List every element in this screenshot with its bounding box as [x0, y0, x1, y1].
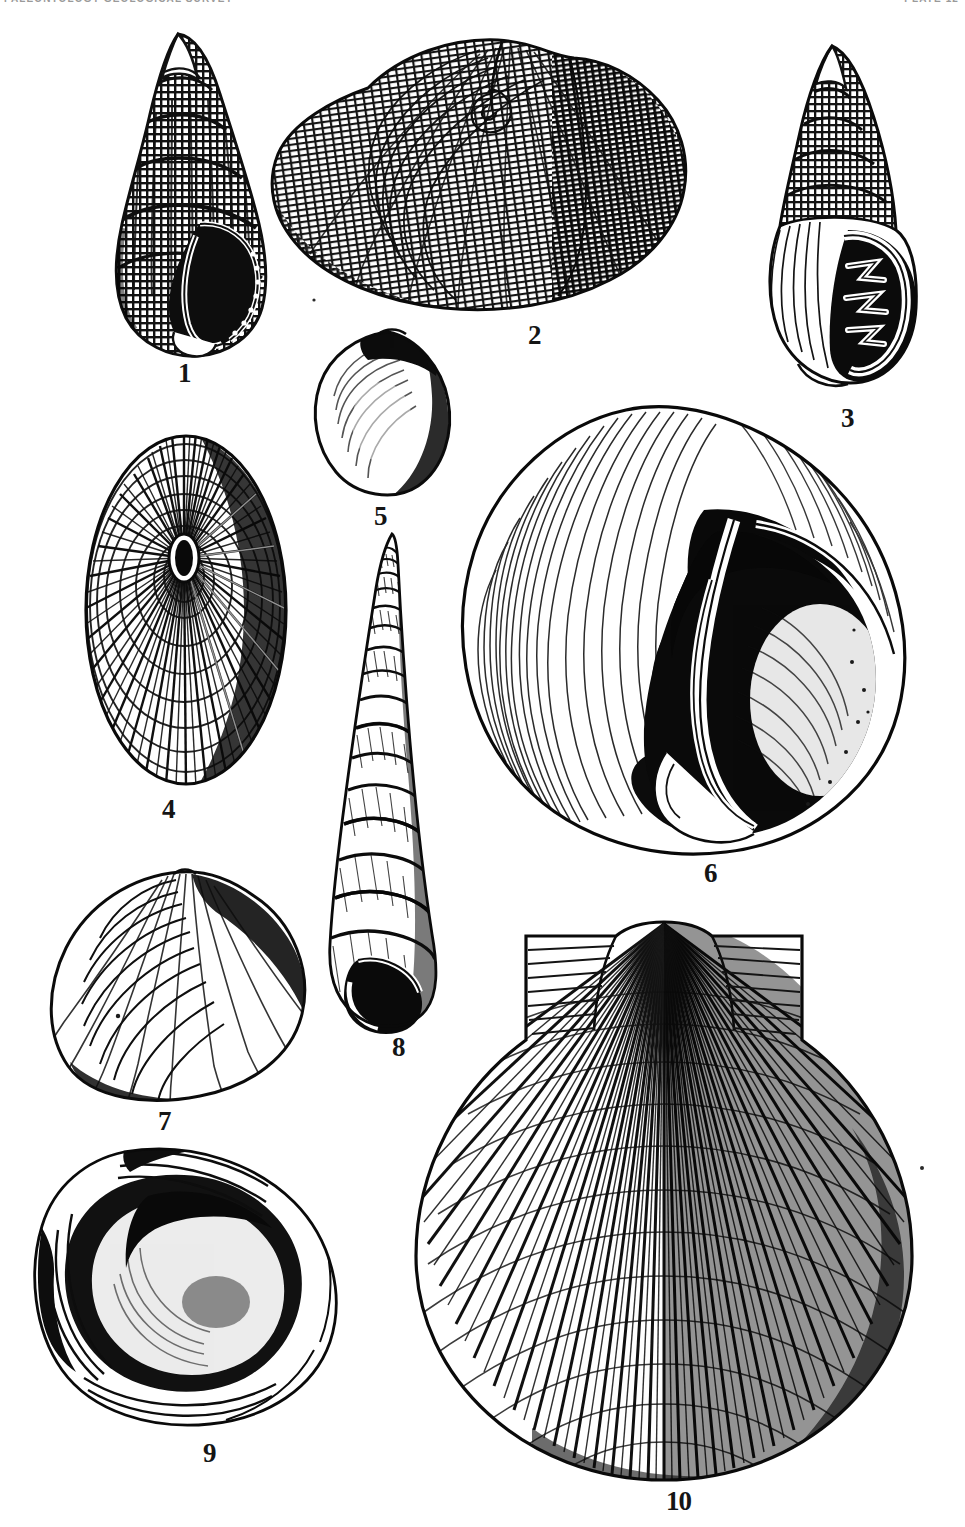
figure-10-pecten-scallop [382, 908, 946, 1494]
figure-label-6: 6 [704, 860, 718, 887]
figure-1-cancellate-gastropod [104, 28, 276, 362]
figure-6-naticid-gastropod [450, 400, 912, 864]
figure-label-1: 1 [178, 360, 192, 387]
running-header-right: PLATE 12 [904, 0, 959, 4]
figure-label-2: 2 [528, 322, 542, 349]
figure-9-oyster-valve [28, 1134, 358, 1434]
figure-label-10: 10 [666, 1488, 691, 1515]
illustration-plate: PALEONTOLOGY GEOLOGICAL SURVEY PLATE 12 [0, 0, 965, 1527]
figure-label-5: 5 [374, 503, 388, 530]
figure-4-keyhole-limpet [80, 430, 292, 790]
running-header: PALEONTOLOGY GEOLOGICAL SURVEY PLATE 12 [0, 0, 965, 7]
figure-label-9: 9 [203, 1440, 217, 1467]
figure-2-large-bivalve [252, 22, 696, 322]
figure-5-small-bivalve [306, 326, 464, 502]
figure-3-dentate-gastropod [744, 40, 924, 398]
figure-label-7: 7 [158, 1108, 172, 1135]
running-header-left: PALEONTOLOGY GEOLOGICAL SURVEY [4, 0, 233, 4]
figure-label-4: 4 [162, 796, 176, 823]
figure-7-ribbed-bivalve [40, 866, 316, 1108]
